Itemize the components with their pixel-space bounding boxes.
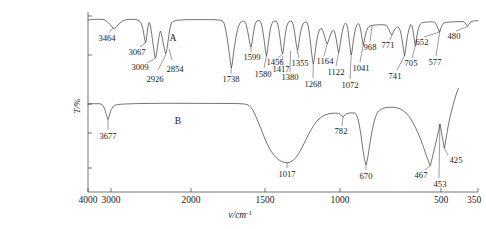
spectrum-a-annotations: 3464 3067 3009 2926 2854 1738 1599 1580 …: [98, 26, 467, 91]
y-axis: T/%: [72, 12, 92, 192]
spectrum-b-annotations: 3677 1017 782 670 467 453 425: [99, 117, 462, 189]
peak-label-3464: 3464: [98, 33, 116, 43]
curve-label-a: A: [170, 33, 177, 43]
spectrum-b-group: [88, 89, 458, 166]
leader-577: [436, 30, 440, 56]
peak-label-1580: 1580: [254, 69, 271, 79]
peak-label-1268: 1268: [304, 79, 321, 89]
y-axis-title: T/%: [72, 98, 82, 113]
peak-label-453: 453: [434, 179, 447, 189]
x-tick-label-1500: 1500: [256, 195, 275, 205]
peak-label-1017: 1017: [278, 169, 296, 179]
peak-label-782: 782: [335, 126, 348, 136]
leader-453: [439, 124, 440, 178]
x-tick-label-1000: 1000: [331, 195, 350, 205]
leader-2926: [158, 55, 166, 70]
peak-label-3067: 3067: [128, 47, 146, 57]
peak-label-425: 425: [450, 155, 463, 165]
peak-label-577: 577: [429, 57, 443, 67]
ir-spectra-figure: 4000 3000 2000 1500 1000 500 350 ν/cm-1 …: [0, 0, 486, 229]
peak-label-2854: 2854: [166, 64, 184, 74]
peak-label-2926: 2926: [146, 74, 164, 84]
peak-label-1122: 1122: [328, 67, 345, 77]
spectra-canvas: 4000 3000 2000 1500 1000 500 350 ν/cm-1 …: [0, 0, 486, 229]
peak-label-1164: 1164: [317, 56, 335, 66]
peak-label-705: 705: [405, 58, 418, 68]
leader-1072: [350, 55, 351, 79]
peak-label-3677: 3677: [99, 131, 117, 141]
peak-label-1355: 1355: [291, 58, 308, 68]
peak-label-741: 741: [389, 71, 402, 81]
peak-label-3009: 3009: [131, 62, 148, 72]
x-tick-label-2000: 2000: [182, 195, 201, 205]
peak-label-480: 480: [448, 31, 461, 41]
peak-label-1738: 1738: [222, 74, 239, 84]
x-axis: 4000 3000 2000 1500 1000 500 350 ν/cm-1: [79, 188, 482, 220]
leader-782: [342, 117, 343, 126]
peak-label-771: 771: [382, 40, 395, 50]
peak-label-1072: 1072: [341, 80, 358, 90]
peak-label-1599: 1599: [243, 52, 260, 62]
spectrum-b-trace: [88, 89, 458, 166]
leader-1122: [336, 53, 339, 66]
leader-741: [397, 56, 405, 70]
leader-1355: [297, 50, 299, 58]
leader-425: [444, 148, 448, 155]
x-tick-label-4000: 4000: [79, 195, 98, 205]
peak-label-1380: 1380: [281, 72, 298, 82]
curve-label-b: B: [175, 116, 181, 126]
leader-705: [412, 46, 415, 58]
x-axis-title: ν/cm-1: [228, 209, 251, 221]
x-tick-label-350: 350: [467, 195, 482, 205]
leader-1164: [324, 44, 327, 56]
leader-2854: [169, 49, 172, 60]
peak-label-670: 670: [360, 171, 373, 181]
peak-label-467: 467: [415, 170, 429, 180]
peak-label-968: 968: [364, 42, 377, 52]
peak-label-652: 652: [416, 37, 429, 47]
leader-968: [370, 26, 372, 43]
peak-label-1041: 1041: [352, 63, 369, 73]
x-tick-label-3000: 3000: [102, 195, 121, 205]
x-tick-label-500: 500: [434, 195, 449, 205]
